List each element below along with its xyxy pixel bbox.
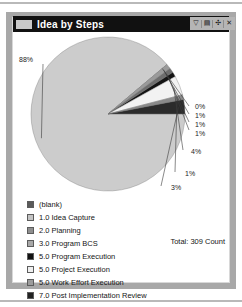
pie-data-label: 1% xyxy=(195,130,205,137)
filter-button[interactable]: ▽ xyxy=(192,19,199,28)
pie-data-label: 1% xyxy=(195,112,205,119)
pie-data-label: 1% xyxy=(195,121,205,128)
window-controls[interactable]: ▽ ▤ ✣ ✕ xyxy=(190,17,235,30)
legend-item-program-execution[interactable]: 5.0 Program Execution xyxy=(27,250,227,263)
legend-swatch xyxy=(27,214,34,221)
pie-chart-plot: 88%0%1%1%1%4%1%3% xyxy=(13,34,230,199)
legend-swatch xyxy=(27,266,34,273)
pie-data-label: 4% xyxy=(191,148,201,155)
bottom-divider xyxy=(0,300,242,302)
pie-data-label: 3% xyxy=(171,184,181,191)
legend-label: 5.0 Program Execution xyxy=(39,252,115,261)
legend-label: (blank) xyxy=(39,200,62,209)
legend-swatch xyxy=(27,253,34,260)
control-divider xyxy=(223,20,224,28)
legend-item-idea-capture[interactable]: 1.0 Idea Capture xyxy=(27,211,227,224)
legend-swatch xyxy=(27,240,34,247)
control-divider xyxy=(201,20,202,28)
export-button[interactable]: ▤ xyxy=(203,19,212,28)
panel-icon xyxy=(16,20,32,29)
legend-item-blank[interactable]: (blank) xyxy=(27,198,227,211)
legend-swatch xyxy=(27,292,34,299)
pie-slices[interactable] xyxy=(31,37,185,191)
pie-data-label: 0% xyxy=(195,103,205,110)
expand-button[interactable]: ✣ xyxy=(214,19,222,28)
control-divider xyxy=(212,20,213,28)
legend-swatch xyxy=(27,279,34,286)
top-divider xyxy=(0,2,242,4)
legend-label: 7.0 Post Implementation Review xyxy=(39,291,147,300)
legend-swatch xyxy=(27,227,34,234)
pie-data-label: 1% xyxy=(185,170,195,177)
legend-label: 1.0 Idea Capture xyxy=(39,213,95,222)
legend-label: 3.0 Program BCS xyxy=(39,239,98,248)
pie-data-label: 88% xyxy=(19,56,33,63)
legend-swatch xyxy=(27,201,34,208)
legend-item-work-effort-execution[interactable]: 5.0 Work Effort Execution xyxy=(27,276,227,289)
legend-label: 2.0 Planning xyxy=(39,226,81,235)
total-count-label: Total: 309 Count xyxy=(170,237,225,246)
legend-label: 5.0 Project Execution xyxy=(39,265,110,274)
legend-item-planning[interactable]: 2.0 Planning xyxy=(27,224,227,237)
page-title: Idea by Steps xyxy=(37,19,104,30)
chart-widget-frame: Idea by Steps ▽ ▤ ✣ ✕ 88%0%1%1%1%4%1%3% … xyxy=(6,12,236,289)
close-button[interactable]: ✕ xyxy=(225,19,233,28)
chart-widget-body: Idea by Steps ▽ ▤ ✣ ✕ 88%0%1%1%1%4%1%3% … xyxy=(12,17,230,283)
chart-legend: (blank) 1.0 Idea Capture 2.0 Planning 3.… xyxy=(27,198,227,302)
legend-item-project-execution[interactable]: 5.0 Project Execution xyxy=(27,263,227,276)
legend-label: 5.0 Work Effort Execution xyxy=(39,278,124,287)
